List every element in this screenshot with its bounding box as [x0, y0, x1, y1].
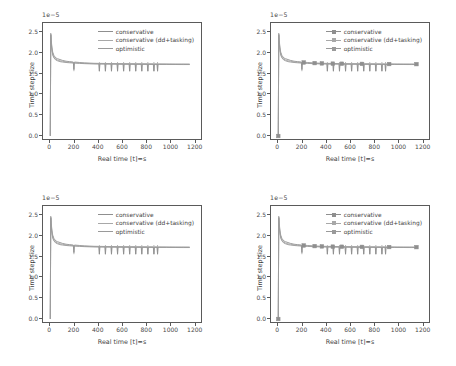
y-tick	[267, 297, 270, 298]
y-tick	[39, 114, 42, 115]
legend-swatch-icon	[326, 45, 341, 52]
x-tick-label: 400	[92, 326, 103, 333]
legend-swatch-icon	[98, 220, 113, 227]
y-tick	[39, 31, 42, 32]
y-axis-label: Time step size	[28, 26, 36, 144]
x-tick-label: 800	[369, 326, 380, 333]
legend-label: conservative (dd+tasking)	[116, 220, 194, 226]
y-tick	[39, 93, 42, 94]
x-tick-label: 1000	[163, 143, 178, 150]
y-tick	[39, 52, 42, 53]
y-tick	[39, 256, 42, 257]
x-tick-label: 1200	[187, 326, 202, 333]
legend-label: conservative	[344, 29, 382, 35]
x-tick-label: 0	[47, 326, 51, 333]
legend-item: optimistic	[98, 45, 194, 52]
legend-item: conservative	[326, 28, 422, 35]
legend-swatch-icon	[98, 28, 113, 35]
y-exponent-label: 1e−5	[42, 11, 60, 18]
y-tick	[267, 52, 270, 53]
legend-label: conservative	[116, 29, 154, 35]
x-tick-label: 0	[275, 143, 279, 150]
legend-label: conservative (dd+tasking)	[344, 220, 422, 226]
x-tick-label: 600	[344, 143, 355, 150]
x-tick-label: 400	[320, 326, 331, 333]
legend-label: conservative	[344, 212, 382, 218]
plot-area: conservativeconservative (dd+tasking)opt…	[270, 22, 430, 140]
y-tick	[267, 318, 270, 319]
y-axis-label: Time step size	[256, 26, 264, 144]
x-tick-label: 0	[47, 143, 51, 150]
legend-swatch-icon	[98, 45, 113, 52]
x-tick-label: 600	[116, 326, 127, 333]
legend-swatch-icon	[326, 220, 341, 227]
y-exponent-label: 1e−5	[42, 194, 60, 201]
figure-grid: 1e−5conservativeconservative (dd+tasking…	[0, 0, 456, 366]
x-tick-label: 200	[68, 326, 79, 333]
x-tick-label: 1200	[415, 326, 430, 333]
x-tick-label: 800	[141, 143, 152, 150]
legend-item: conservative (dd+tasking)	[98, 220, 194, 227]
legend-item: optimistic	[326, 228, 422, 235]
y-axis-label: Time step size	[28, 209, 36, 327]
y-tick	[267, 31, 270, 32]
y-tick	[39, 318, 42, 319]
x-tick-label: 1200	[187, 143, 202, 150]
y-exponent-label: 1e−5	[270, 194, 288, 201]
legend-label: optimistic	[344, 46, 373, 52]
legend-label: conservative (dd+tasking)	[344, 37, 422, 43]
x-tick-label: 600	[116, 143, 127, 150]
x-tick-label: 0	[275, 326, 279, 333]
y-tick	[267, 235, 270, 236]
legend-swatch-icon	[98, 228, 113, 235]
x-tick-label: 1200	[415, 143, 430, 150]
legend: conservativeconservative (dd+tasking)opt…	[324, 209, 425, 237]
x-tick-label: 1000	[391, 326, 406, 333]
x-tick-label: 200	[296, 326, 307, 333]
y-tick	[267, 73, 270, 74]
legend-item: conservative (dd+tasking)	[326, 220, 422, 227]
y-tick	[39, 297, 42, 298]
legend-item: conservative	[98, 28, 194, 35]
y-tick	[267, 114, 270, 115]
legend-swatch-icon	[326, 37, 341, 44]
y-tick	[39, 214, 42, 215]
legend-label: optimistic	[116, 229, 145, 235]
legend-item: optimistic	[326, 45, 422, 52]
plot-area: conservativeconservative (dd+tasking)opt…	[42, 22, 202, 140]
legend-item: conservative (dd+tasking)	[98, 37, 194, 44]
chart-panel-bottom-right: 1e−5conservativeconservative (dd+tasking…	[228, 183, 456, 366]
chart-panel-top-right: 1e−5conservativeconservative (dd+tasking…	[228, 0, 456, 183]
y-tick	[39, 135, 42, 136]
legend-swatch-icon	[98, 37, 113, 44]
x-tick-label: 800	[141, 326, 152, 333]
legend-item: optimistic	[98, 228, 194, 235]
x-axis-label: Real time [t]=s	[42, 155, 202, 163]
x-tick-label: 200	[296, 143, 307, 150]
x-tick-label: 400	[92, 143, 103, 150]
legend: conservativeconservative (dd+tasking)opt…	[324, 26, 425, 54]
y-tick	[267, 93, 270, 94]
y-tick	[267, 276, 270, 277]
plot-area: conservativeconservative (dd+tasking)opt…	[270, 205, 430, 323]
x-tick-label: 1000	[391, 143, 406, 150]
y-tick	[39, 73, 42, 74]
y-tick	[39, 235, 42, 236]
y-tick	[267, 256, 270, 257]
legend-label: conservative	[116, 212, 154, 218]
x-axis-label: Real time [t]=s	[270, 155, 430, 163]
legend: conservativeconservative (dd+tasking)opt…	[96, 209, 197, 237]
legend-label: optimistic	[344, 229, 373, 235]
y-axis-label: Time step size	[256, 209, 264, 327]
x-tick-label: 600	[344, 326, 355, 333]
x-tick-label: 200	[68, 143, 79, 150]
y-tick	[39, 276, 42, 277]
y-tick	[267, 214, 270, 215]
legend-item: conservative	[98, 211, 194, 218]
legend-item: conservative (dd+tasking)	[326, 37, 422, 44]
legend-label: conservative (dd+tasking)	[116, 37, 194, 43]
legend-swatch-icon	[326, 28, 341, 35]
x-tick-label: 400	[320, 143, 331, 150]
x-tick-label: 800	[369, 143, 380, 150]
legend-swatch-icon	[326, 228, 341, 235]
